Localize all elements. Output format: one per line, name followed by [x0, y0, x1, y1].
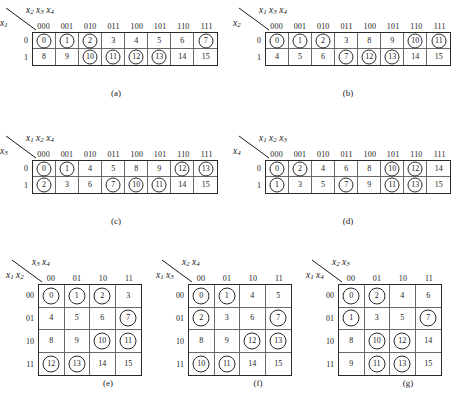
kmap-g-cell-4[interactable]: 4: [390, 285, 416, 308]
kmap-a-cell-4[interactable]: 4: [125, 33, 148, 49]
kmap-b-cell-10[interactable]: 10: [404, 33, 427, 49]
kmap-d-cell-9[interactable]: 9: [358, 177, 381, 193]
kmap-d-cell-5[interactable]: 5: [312, 177, 335, 193]
kmap-e-cell-8[interactable]: 8: [39, 330, 65, 353]
kmap-c-cell-7[interactable]: 7: [102, 177, 125, 193]
kmap-a-cell-3[interactable]: 3: [102, 33, 125, 49]
kmap-b-cell-5[interactable]: 5: [289, 49, 312, 65]
kmap-e-cell-1[interactable]: 1: [65, 285, 91, 308]
kmap-c-cell-0[interactable]: 0: [33, 161, 56, 177]
kmap-c-cell-13[interactable]: 13: [194, 161, 217, 177]
kmap-b-cell-15[interactable]: 15: [427, 49, 450, 65]
kmap-b-cell-12[interactable]: 12: [358, 49, 381, 65]
kmap-c-cell-5[interactable]: 5: [102, 161, 125, 177]
kmap-d-cell-6[interactable]: 6: [335, 161, 358, 177]
kmap-e-cell-13[interactable]: 13: [65, 353, 91, 376]
kmap-c-cell-2[interactable]: 2: [33, 177, 56, 193]
kmap-e-cell-2[interactable]: 2: [90, 285, 116, 308]
kmap-d-cell-11[interactable]: 11: [381, 177, 404, 193]
kmap-d-cell-12[interactable]: 12: [404, 161, 427, 177]
kmap-e-cell-0[interactable]: 0: [39, 285, 65, 308]
kmap-e-cell-6[interactable]: 6: [90, 308, 116, 331]
kmap-g-cell-5[interactable]: 5: [390, 308, 416, 331]
kmap-e-cell-7[interactable]: 7: [116, 308, 142, 331]
kmap-b-cell-14[interactable]: 14: [404, 49, 427, 65]
kmap-b-cell-11[interactable]: 11: [427, 33, 450, 49]
kmap-a-cell-8[interactable]: 8: [33, 49, 56, 65]
kmap-b-cell-6[interactable]: 6: [312, 49, 335, 65]
kmap-b-cell-9[interactable]: 9: [381, 33, 404, 49]
kmap-e-cell-9[interactable]: 9: [65, 330, 91, 353]
kmap-a-cell-11[interactable]: 11: [102, 49, 125, 65]
kmap-f-cell-4[interactable]: 4: [240, 285, 266, 308]
kmap-e-cell-5[interactable]: 5: [65, 308, 91, 331]
kmap-f-cell-5[interactable]: 5: [266, 285, 292, 308]
kmap-f-cell-6[interactable]: 6: [240, 308, 266, 331]
kmap-g-cell-15[interactable]: 15: [416, 353, 442, 376]
kmap-b-cell-1[interactable]: 1: [289, 33, 312, 49]
kmap-d-cell-14[interactable]: 14: [427, 161, 450, 177]
kmap-b-cell-7[interactable]: 7: [335, 49, 358, 65]
kmap-d-cell-0[interactable]: 0: [266, 161, 289, 177]
kmap-f-cell-2[interactable]: 2: [189, 308, 215, 331]
kmap-g-cell-6[interactable]: 6: [416, 285, 442, 308]
kmap-c-cell-15[interactable]: 15: [194, 177, 217, 193]
kmap-e-cell-3[interactable]: 3: [116, 285, 142, 308]
kmap-d-cell-3[interactable]: 3: [289, 177, 312, 193]
kmap-f-cell-0[interactable]: 0: [189, 285, 215, 308]
kmap-d-cell-4[interactable]: 4: [312, 161, 335, 177]
kmap-c-cell-11[interactable]: 11: [148, 177, 171, 193]
kmap-c-cell-10[interactable]: 10: [125, 177, 148, 193]
kmap-f-cell-7[interactable]: 7: [266, 308, 292, 331]
kmap-c-cell-1[interactable]: 1: [56, 161, 79, 177]
kmap-c-cell-12[interactable]: 12: [171, 161, 194, 177]
kmap-a-cell-9[interactable]: 9: [56, 49, 79, 65]
kmap-f-cell-8[interactable]: 8: [189, 330, 215, 353]
kmap-c-cell-3[interactable]: 3: [56, 177, 79, 193]
kmap-f-cell-12[interactable]: 12: [240, 330, 266, 353]
kmap-e-cell-12[interactable]: 12: [39, 353, 65, 376]
kmap-a-cell-12[interactable]: 12: [125, 49, 148, 65]
kmap-g-cell-1[interactable]: 1: [339, 308, 365, 331]
kmap-f-cell-14[interactable]: 14: [240, 353, 266, 376]
kmap-f-cell-13[interactable]: 13: [266, 330, 292, 353]
kmap-g-cell-9[interactable]: 9: [339, 353, 365, 376]
kmap-f-cell-1[interactable]: 1: [215, 285, 241, 308]
kmap-a-cell-10[interactable]: 10: [79, 49, 102, 65]
kmap-g-cell-3[interactable]: 3: [365, 308, 391, 331]
kmap-c-cell-9[interactable]: 9: [148, 161, 171, 177]
kmap-f-cell-10[interactable]: 10: [189, 353, 215, 376]
kmap-b-cell-0[interactable]: 0: [266, 33, 289, 49]
kmap-g-cell-14[interactable]: 14: [416, 330, 442, 353]
kmap-e-cell-11[interactable]: 11: [116, 330, 142, 353]
kmap-g-cell-11[interactable]: 11: [365, 353, 391, 376]
kmap-a-cell-15[interactable]: 15: [194, 49, 217, 65]
kmap-g-cell-12[interactable]: 12: [390, 330, 416, 353]
kmap-a-cell-1[interactable]: 1: [56, 33, 79, 49]
kmap-a-cell-7[interactable]: 7: [194, 33, 217, 49]
kmap-e-cell-14[interactable]: 14: [90, 353, 116, 376]
kmap-c-cell-8[interactable]: 8: [125, 161, 148, 177]
kmap-f-cell-9[interactable]: 9: [215, 330, 241, 353]
kmap-a-cell-0[interactable]: 0: [33, 33, 56, 49]
kmap-d-cell-7[interactable]: 7: [335, 177, 358, 193]
kmap-a-cell-5[interactable]: 5: [148, 33, 171, 49]
kmap-g-cell-0[interactable]: 0: [339, 285, 365, 308]
kmap-b-cell-2[interactable]: 2: [312, 33, 335, 49]
kmap-b-cell-13[interactable]: 13: [381, 49, 404, 65]
kmap-d-cell-1[interactable]: 1: [266, 177, 289, 193]
kmap-c-cell-6[interactable]: 6: [79, 177, 102, 193]
kmap-g-cell-13[interactable]: 13: [390, 353, 416, 376]
kmap-c-cell-14[interactable]: 14: [171, 177, 194, 193]
kmap-b-cell-3[interactable]: 3: [335, 33, 358, 49]
kmap-d-cell-10[interactable]: 10: [381, 161, 404, 177]
kmap-d-cell-8[interactable]: 8: [358, 161, 381, 177]
kmap-e-cell-4[interactable]: 4: [39, 308, 65, 331]
kmap-e-cell-15[interactable]: 15: [116, 353, 142, 376]
kmap-f-cell-11[interactable]: 11: [215, 353, 241, 376]
kmap-g-cell-7[interactable]: 7: [416, 308, 442, 331]
kmap-a-cell-13[interactable]: 13: [148, 49, 171, 65]
kmap-b-cell-8[interactable]: 8: [358, 33, 381, 49]
kmap-d-cell-2[interactable]: 2: [289, 161, 312, 177]
kmap-c-cell-4[interactable]: 4: [79, 161, 102, 177]
